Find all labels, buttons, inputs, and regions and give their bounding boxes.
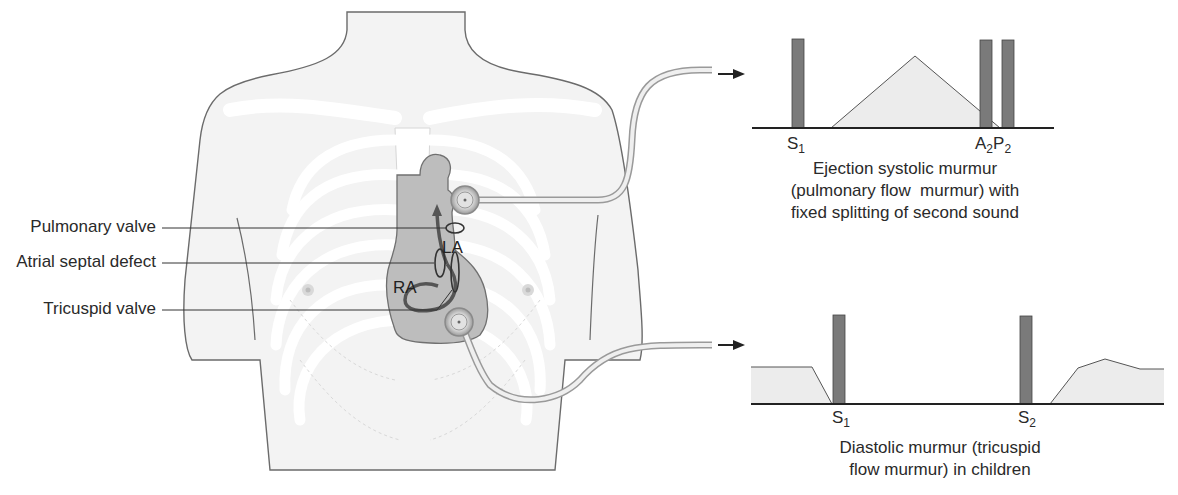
label-tricuspid-valve: Tricuspid valve — [0, 299, 156, 319]
caption-top-line3: fixed splitting of second sound — [760, 202, 1050, 224]
tick-s1-bottom: S1 — [832, 408, 850, 430]
stethoscope-head-lower — [445, 308, 473, 336]
arrow-icon — [718, 340, 745, 350]
label-pulmonary-valve: Pulmonary valve — [0, 217, 156, 237]
diagram-canvas — [0, 0, 1178, 495]
tick-s2-bottom: S2 — [1018, 408, 1036, 430]
caption-bottom-line2: flow murmur) in children — [810, 459, 1070, 481]
stethoscope-head-upper — [451, 186, 479, 214]
caption-top-line1: Ejection systolic murmur — [760, 158, 1050, 180]
caption-top-line2: (pulmonary flow murmur) with — [760, 180, 1050, 202]
caption-top: Ejection systolic murmur (pulmonary flow… — [760, 158, 1050, 224]
label-la: LA — [442, 238, 463, 258]
label-ra: RA — [393, 278, 417, 298]
caption-bottom: Diastolic murmur (tricuspid flow murmur)… — [810, 437, 1070, 481]
label-atrial-septal-defect: Atrial septal defect — [0, 252, 156, 272]
arrow-icon — [718, 69, 745, 79]
phonocardiogram-top — [752, 39, 1054, 128]
phonocardiogram-bottom — [751, 315, 1164, 404]
caption-bottom-line1: Diastolic murmur (tricuspid — [810, 437, 1070, 459]
tick-a2p2: A2P2 — [975, 134, 1011, 156]
tick-s1-top: S1 — [787, 134, 805, 156]
